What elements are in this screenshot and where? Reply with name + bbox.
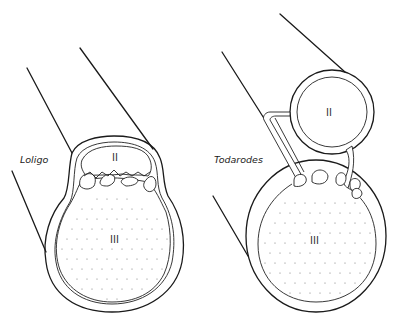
stipple-dot <box>359 212 360 213</box>
stipple-dot <box>141 228 142 229</box>
stipple-dot <box>96 278 97 279</box>
stipple-dot <box>116 298 117 299</box>
stipple-dot <box>339 212 340 213</box>
stipple-dot <box>324 282 325 283</box>
stipple-dot <box>131 228 132 229</box>
stipple-dot <box>161 268 162 269</box>
stipple-dot <box>86 238 87 239</box>
stipple-dot <box>309 292 310 293</box>
stipple-dot <box>111 248 112 249</box>
stipple-dot <box>349 212 350 213</box>
stipple-dot <box>324 242 325 243</box>
stipple-dot <box>344 262 345 263</box>
stipple-dot <box>304 262 305 263</box>
stipple-dot <box>334 282 335 283</box>
stipple-dot <box>96 258 97 259</box>
stipple-dot <box>354 202 355 203</box>
stipple-dot <box>126 198 127 199</box>
stipple-dot <box>314 222 315 223</box>
stipple-dot <box>294 242 295 243</box>
stipple-dot <box>106 258 107 259</box>
stipple-dot <box>156 238 157 239</box>
tube-line-lower <box>213 196 248 256</box>
stipple-dot <box>126 218 127 219</box>
stipple-dot <box>86 258 87 259</box>
stipple-dot <box>91 288 92 289</box>
stipple-dot <box>269 232 270 233</box>
stipple-dot <box>81 208 82 209</box>
stipple-dot <box>279 272 280 273</box>
stipple-dot <box>314 282 315 283</box>
stipple-dot <box>304 202 305 203</box>
stipple-dot <box>111 288 112 289</box>
stipple-dot <box>274 262 275 263</box>
stipple-dot <box>141 208 142 209</box>
stipple-dot <box>76 258 77 259</box>
region-ii-label: II <box>326 107 332 118</box>
stipple-dot <box>329 252 330 253</box>
species-label-todarodes: Todarodes <box>214 154 263 165</box>
stipple-dot <box>294 282 295 283</box>
stipple-dot <box>279 252 280 253</box>
stipple-dot <box>284 282 285 283</box>
stipple-dot <box>329 212 330 213</box>
stipple-dot <box>339 252 340 253</box>
stipple-dot <box>81 268 82 269</box>
stipple-dot <box>339 232 340 233</box>
stipple-dot <box>314 262 315 263</box>
stipple-dot <box>141 288 142 289</box>
stipple-dot <box>156 278 157 279</box>
stipple-dot <box>156 258 157 259</box>
stipple-dot <box>76 238 77 239</box>
stipple-dot <box>279 212 280 213</box>
stipple-dot <box>329 272 330 273</box>
region-iii-label: III <box>310 235 319 246</box>
stipple-dot <box>131 288 132 289</box>
stipple-dot <box>91 208 92 209</box>
stipple-dot <box>146 218 147 219</box>
stipple-dot <box>309 232 310 233</box>
stipple-dot <box>106 198 107 199</box>
lobe-center-left <box>100 174 115 186</box>
stipple-dot <box>319 272 320 273</box>
stipple-dot <box>364 242 365 243</box>
stipple-dot <box>369 232 370 233</box>
stipple-dot <box>81 248 82 249</box>
stipple-dot <box>304 242 305 243</box>
stipple-dot <box>111 268 112 269</box>
region-iii-label: III <box>110 234 119 245</box>
stipple-dot <box>334 202 335 203</box>
stipple-dot <box>71 228 72 229</box>
stipple-dot <box>269 272 270 273</box>
todarodes-cross-section: Todarodes II III <box>213 14 386 312</box>
stipple-dot <box>141 248 142 249</box>
ganglion-2 <box>312 170 328 184</box>
stipple-dot <box>91 228 92 229</box>
stipple-dot <box>354 242 355 243</box>
stipple-dot <box>121 208 122 209</box>
stipple-dot <box>349 252 350 253</box>
stipple-dot <box>96 218 97 219</box>
stipple-dot <box>329 292 330 293</box>
tube-line-upper <box>280 14 345 72</box>
stipple-dot <box>81 228 82 229</box>
stipple-dot <box>156 218 157 219</box>
stipple-dot <box>136 278 137 279</box>
stipple-dot <box>314 202 315 203</box>
stipple-dot <box>161 248 162 249</box>
stipple-dot <box>116 278 117 279</box>
stipple-dot <box>131 208 132 209</box>
stipple-dot <box>116 218 117 219</box>
stipple-dot <box>274 242 275 243</box>
stipple-dot <box>324 222 325 223</box>
stipple-dot <box>111 228 112 229</box>
stipple-dot <box>289 272 290 273</box>
stipple-dot <box>126 238 127 239</box>
stipple-dot <box>151 248 152 249</box>
stipple-dot <box>96 198 97 199</box>
stipple-dot <box>324 202 325 203</box>
stipple-dot <box>106 218 107 219</box>
squid-cross-section-diagram: Loligo II III Todarodes II III <box>0 0 398 322</box>
stipple-dot <box>101 288 102 289</box>
stipple-dot <box>354 282 355 283</box>
